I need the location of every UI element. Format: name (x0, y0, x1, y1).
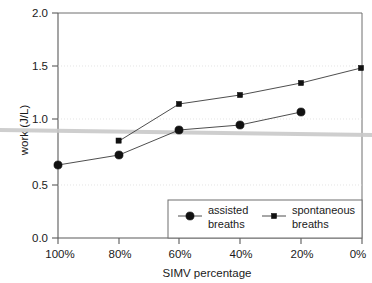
spontaneous-point-60 (176, 101, 181, 106)
y-tick-label-2-0: 2.0 (32, 7, 48, 19)
x-tick-label-20: 20% (290, 248, 313, 260)
y-tick-label-0-0: 0.0 (32, 232, 48, 244)
legend-label-spontaneous-line1: spontaneous (292, 204, 355, 216)
y-tick-label-1-5: 1.5 (32, 60, 48, 72)
legend-label-assisted-line1: assisted (208, 204, 248, 216)
chart-page: 2.0 1.5 1.0 0.5 0.0 100% 80% 60% 40% 20%… (0, 0, 372, 283)
y-tick-label-0-5: 0.5 (32, 179, 48, 191)
assisted-breaths-line (58, 112, 301, 165)
x-tick-label-40: 40% (229, 248, 252, 260)
gridlines (58, 66, 362, 185)
x-tick-label-60: 60% (168, 248, 191, 260)
x-tick-label-80: 80% (108, 248, 131, 260)
series-assisted-breaths (54, 108, 305, 169)
assisted-point-80 (115, 151, 123, 159)
spontaneous-point-0 (358, 65, 363, 70)
assisted-point-60 (175, 126, 183, 134)
assisted-point-100 (54, 161, 62, 169)
chart-legend[interactable]: assisted breaths spontaneous breaths (168, 200, 362, 238)
spontaneous-point-40 (237, 92, 242, 97)
legend-marker-square-icon (271, 213, 276, 218)
assisted-point-20 (297, 108, 305, 116)
highlighter-band-annotation (0, 130, 372, 135)
legend-label-spontaneous-line2: breaths (292, 218, 329, 230)
x-axis-title: SIMV percentage (163, 267, 252, 279)
spontaneous-point-80 (116, 138, 121, 143)
x-tick-label-100: 100% (45, 248, 74, 260)
spontaneous-point-20 (298, 80, 303, 85)
legend-label-assisted-line2: breaths (208, 218, 245, 230)
y-axis-ticks (52, 13, 58, 238)
work-vs-simv-line-chart: 2.0 1.5 1.0 0.5 0.0 100% 80% 60% 40% 20%… (0, 0, 372, 283)
x-tick-label-0: 0% (350, 248, 367, 260)
assisted-point-40 (236, 121, 244, 129)
y-tick-label-1-0: 1.0 (32, 113, 48, 125)
legend-marker-circle-icon (186, 212, 194, 220)
x-axis-ticks (58, 238, 362, 244)
